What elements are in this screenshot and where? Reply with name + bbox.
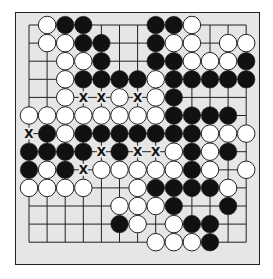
black-stone: [129, 71, 147, 89]
white-stone: [129, 197, 147, 215]
black-stone: [165, 197, 183, 215]
go-board: XXXXXXXX: [0, 0, 273, 279]
black-stone: [20, 161, 38, 179]
white-stone: [75, 179, 93, 197]
white-stone: [183, 16, 201, 34]
black-stone: [56, 143, 74, 161]
black-stone: [147, 16, 165, 34]
black-stone: [165, 71, 183, 89]
white-stone: [237, 125, 255, 143]
x-marker: X: [133, 145, 143, 159]
white-stone: [165, 215, 183, 233]
white-stone: [93, 107, 111, 125]
black-stone: [56, 161, 74, 179]
white-stone: [165, 34, 183, 52]
black-stone: [237, 71, 255, 89]
black-stone: [183, 179, 201, 197]
white-stone: [111, 107, 129, 125]
black-stone: [93, 34, 111, 52]
black-stone: [147, 179, 165, 197]
white-stone: [237, 161, 255, 179]
black-stone: [75, 16, 93, 34]
white-stone: [165, 143, 183, 161]
white-stone: [201, 143, 219, 161]
black-stone: [201, 107, 219, 125]
white-stone: [183, 52, 201, 69]
white-stone: [165, 161, 183, 179]
white-stone: [147, 89, 165, 107]
black-stone: [165, 16, 183, 34]
white-stone: [38, 16, 56, 34]
white-stone: [201, 125, 219, 143]
black-stone: [165, 179, 183, 197]
black-stone: [93, 125, 111, 143]
black-stone: [219, 197, 237, 215]
black-stone: [75, 71, 93, 89]
white-stone: [38, 34, 56, 52]
white-stone: [20, 179, 38, 197]
white-stone: [129, 179, 147, 197]
white-stone: [56, 89, 74, 107]
black-stone: [201, 71, 219, 89]
white-stone: [201, 52, 219, 69]
black-stone: [165, 52, 183, 69]
white-stone: [237, 34, 255, 52]
white-stone: [129, 215, 147, 233]
x-marker: X: [97, 145, 107, 159]
white-stone: [201, 161, 219, 179]
black-stone: [237, 52, 255, 69]
black-stone: [129, 125, 147, 143]
black-stone: [111, 215, 129, 233]
white-stone: [129, 107, 147, 125]
black-stone: [75, 143, 93, 161]
white-stone: [219, 125, 237, 143]
black-stone: [75, 34, 93, 52]
white-stone: [38, 179, 56, 197]
white-stone: [219, 52, 237, 69]
white-stone: [147, 161, 165, 179]
black-stone: [201, 179, 219, 197]
white-stone: [183, 233, 201, 251]
black-stone: [165, 107, 183, 125]
white-stone: [75, 107, 93, 125]
black-stone: [93, 52, 111, 69]
white-stone: [219, 34, 237, 52]
black-stone: [75, 125, 93, 143]
black-stone: [93, 71, 111, 89]
black-stone: [38, 125, 56, 143]
white-stone: [147, 107, 165, 125]
white-stone: [111, 197, 129, 215]
black-stone: [111, 71, 129, 89]
black-stone: [165, 89, 183, 107]
black-stone: [147, 52, 165, 69]
white-stone: [56, 125, 74, 143]
black-stone: [183, 125, 201, 143]
x-marker: X: [97, 91, 107, 105]
x-marker: X: [79, 163, 89, 177]
x-marker: X: [24, 127, 34, 141]
x-marker: X: [151, 145, 161, 159]
white-stone: [147, 197, 165, 215]
black-stone: [56, 16, 74, 34]
white-stone: [56, 34, 74, 52]
white-stone: [111, 161, 129, 179]
x-marker: X: [79, 91, 89, 105]
white-stone: [183, 34, 201, 52]
black-stone: [147, 34, 165, 52]
black-stone: [165, 125, 183, 143]
white-stone: [93, 161, 111, 179]
white-stone: [56, 179, 74, 197]
black-stone: [111, 143, 129, 161]
white-stone: [129, 161, 147, 179]
white-stone: [56, 52, 74, 69]
x-marker: X: [133, 91, 143, 105]
black-stone: [147, 125, 165, 143]
black-stone: [38, 143, 56, 161]
white-stone: [38, 107, 56, 125]
white-stone: [56, 71, 74, 89]
white-stone: [147, 233, 165, 251]
black-stone: [219, 143, 237, 161]
black-stone: [201, 233, 219, 251]
black-stone: [201, 215, 219, 233]
black-stone: [111, 125, 129, 143]
